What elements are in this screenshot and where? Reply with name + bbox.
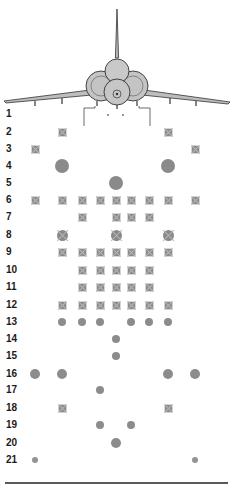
station-marker-sq bbox=[113, 249, 120, 256]
station-marker-sq bbox=[192, 197, 199, 204]
station-marker-mid bbox=[30, 369, 40, 379]
station-marker-sq bbox=[113, 302, 120, 309]
row-label: 12 bbox=[6, 300, 30, 310]
station-marker-dot bbox=[96, 386, 104, 394]
row-label: 18 bbox=[6, 403, 30, 413]
station-marker-sq bbox=[79, 302, 86, 309]
bottom-rule bbox=[5, 482, 228, 484]
row-label: 8 bbox=[6, 230, 30, 240]
station-marker-dot bbox=[164, 318, 172, 326]
loading-stations-chart: 123456789101112131415161718192021 bbox=[0, 0, 235, 496]
station-marker-sq bbox=[32, 146, 39, 153]
station-marker-dot bbox=[112, 335, 120, 343]
station-marker-sq bbox=[165, 302, 172, 309]
row-label: 21 bbox=[6, 455, 30, 465]
station-marker-sq bbox=[165, 249, 172, 256]
station-marker-sq bbox=[146, 302, 153, 309]
row-label: 14 bbox=[6, 334, 30, 344]
station-marker-sq bbox=[128, 249, 135, 256]
station-marker-sq bbox=[79, 214, 86, 221]
row-label: 9 bbox=[6, 247, 30, 257]
station-marker-dot bbox=[145, 318, 153, 326]
station-marker-mid bbox=[163, 369, 173, 379]
station-marker-sq bbox=[192, 146, 199, 153]
station-marker-mid bbox=[111, 438, 121, 448]
station-marker-sq bbox=[79, 267, 86, 274]
station-marker-sq bbox=[113, 197, 120, 204]
station-marker-sq bbox=[146, 267, 153, 274]
station-marker-big bbox=[109, 176, 123, 190]
station-marker-sq bbox=[165, 405, 172, 412]
station-marker-sq bbox=[97, 197, 104, 204]
station-marker-sqbig bbox=[163, 230, 174, 241]
station-marker-sq bbox=[97, 267, 104, 274]
row-label: 4 bbox=[6, 161, 30, 171]
station-marker-sq bbox=[165, 129, 172, 136]
station-marker-sq bbox=[165, 197, 172, 204]
station-marker-mid bbox=[190, 369, 200, 379]
row-label: 15 bbox=[6, 351, 30, 361]
station-marker-sq bbox=[113, 284, 120, 291]
station-marker-sm bbox=[32, 457, 38, 463]
row-label: 1 bbox=[6, 109, 30, 119]
row-label: 3 bbox=[6, 144, 30, 154]
station-marker-sq bbox=[146, 284, 153, 291]
station-marker-dot bbox=[127, 318, 135, 326]
row-label: 17 bbox=[6, 385, 30, 395]
row-label: 16 bbox=[6, 369, 30, 379]
station-marker-dot bbox=[58, 318, 66, 326]
row-label: 6 bbox=[6, 195, 30, 205]
station-marker-dot bbox=[96, 318, 104, 326]
station-marker-sq bbox=[97, 302, 104, 309]
station-marker-sq bbox=[59, 405, 66, 412]
station-marker-dot bbox=[96, 421, 104, 429]
row-label: 10 bbox=[6, 265, 30, 275]
station-marker-sq bbox=[59, 129, 66, 136]
row-label: 5 bbox=[6, 178, 30, 188]
row-label: 13 bbox=[6, 317, 30, 327]
station-marker-sm bbox=[192, 457, 198, 463]
row-label: 11 bbox=[6, 282, 30, 292]
station-marker-dot bbox=[78, 318, 86, 326]
station-marker-sq bbox=[128, 197, 135, 204]
station-marker-sqbig bbox=[111, 230, 122, 241]
station-marker-big bbox=[55, 159, 69, 173]
station-marker-sqbig bbox=[57, 230, 68, 241]
station-marker-dot bbox=[112, 352, 120, 360]
station-marker-sq bbox=[128, 302, 135, 309]
station-marker-sq bbox=[59, 302, 66, 309]
station-marker-sq bbox=[97, 249, 104, 256]
row-label: 7 bbox=[6, 212, 30, 222]
row-label: 2 bbox=[6, 127, 30, 137]
station-marker-sq bbox=[146, 249, 153, 256]
station-marker-sq bbox=[128, 267, 135, 274]
station-marker-big bbox=[161, 159, 175, 173]
station-marker-sq bbox=[59, 249, 66, 256]
station-marker-sq bbox=[79, 197, 86, 204]
station-marker-sq bbox=[128, 214, 135, 221]
station-marker-mid bbox=[57, 369, 67, 379]
station-marker-sq bbox=[146, 197, 153, 204]
station-marker-sq bbox=[32, 197, 39, 204]
station-marker-sq bbox=[79, 249, 86, 256]
station-marker-sq bbox=[128, 284, 135, 291]
row-label: 20 bbox=[6, 438, 30, 448]
station-marker-dot bbox=[127, 421, 135, 429]
station-marker-sq bbox=[97, 284, 104, 291]
station-marker-sq bbox=[79, 284, 86, 291]
station-marker-sq bbox=[146, 214, 153, 221]
station-marker-sq bbox=[113, 214, 120, 221]
station-marker-sq bbox=[59, 197, 66, 204]
row-label: 19 bbox=[6, 420, 30, 430]
station-marker-sq bbox=[113, 267, 120, 274]
